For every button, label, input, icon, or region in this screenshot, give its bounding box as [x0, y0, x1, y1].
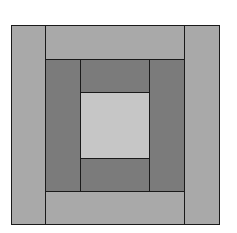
middle-left-strip [45, 59, 81, 192]
center-square [80, 92, 150, 159]
outer-bottom-strip [45, 191, 185, 225]
outer-left-strip [11, 25, 46, 225]
middle-right-strip [149, 59, 185, 192]
outer-right-strip [184, 25, 220, 225]
middle-top-strip [80, 59, 150, 93]
middle-bottom-strip [80, 158, 150, 192]
outer-top-strip [45, 25, 185, 60]
